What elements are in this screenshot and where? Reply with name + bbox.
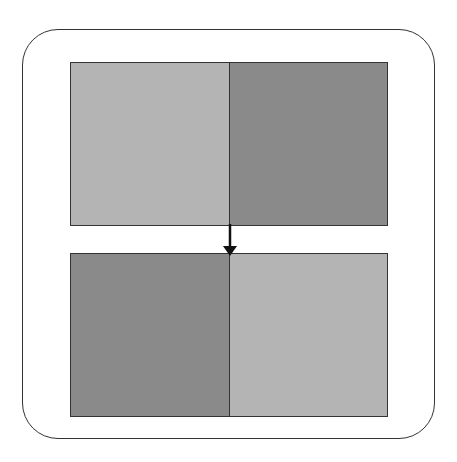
down-arrow-icon	[0, 0, 457, 462]
